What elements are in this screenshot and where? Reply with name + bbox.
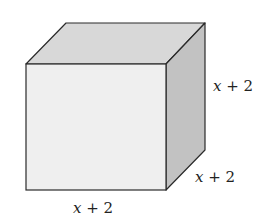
cube-diagram: x + 2 x + 2 x + 2 bbox=[0, 0, 269, 221]
width-label: x + 2 bbox=[73, 199, 113, 217]
height-label: x + 2 bbox=[213, 77, 253, 95]
depth-label: x + 2 bbox=[195, 168, 235, 186]
cube-front-face bbox=[26, 64, 166, 190]
